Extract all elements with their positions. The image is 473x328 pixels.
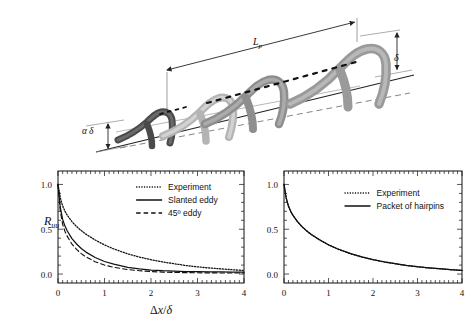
alpha-delta-label: αδ bbox=[82, 126, 93, 136]
x-tick-label: 2 bbox=[371, 288, 376, 298]
packet-length-label: Lp bbox=[253, 36, 262, 50]
hairpin-vortex-4 bbox=[290, 49, 386, 107]
y-tick-label: 1.0 bbox=[267, 180, 279, 190]
delta-label: δ bbox=[394, 52, 399, 63]
legend-label: 45º eddy bbox=[168, 208, 202, 218]
delta-leader-top bbox=[360, 30, 400, 36]
left-plot-legend: ExperimentSlanted eddy45º eddy bbox=[136, 182, 218, 218]
right-plot-frame bbox=[284, 171, 462, 283]
right-plot-ticks bbox=[284, 171, 462, 283]
right-plot: 012340.00.51.0 ExperimentPacket of hairp… bbox=[248, 163, 473, 328]
right-plot-svg: 012340.00.51.0 ExperimentPacket of hairp… bbox=[248, 163, 473, 303]
y-tick-label: 0.0 bbox=[267, 270, 279, 280]
left-plot-ylabel: Ruu bbox=[44, 214, 59, 230]
x-tick-label: 3 bbox=[195, 288, 200, 298]
x-tick-label: 1 bbox=[102, 288, 107, 298]
x-tick-label: 4 bbox=[242, 288, 247, 298]
legend-label: Packet of hairpins bbox=[377, 201, 445, 211]
right-plot-legend: ExperimentPacket of hairpins bbox=[345, 188, 445, 211]
hairpin-vortex-1 bbox=[118, 112, 172, 146]
y-tick-label: 0.5 bbox=[267, 225, 279, 235]
x-tick-label: 0 bbox=[282, 288, 287, 298]
x-tick-label: 3 bbox=[415, 288, 420, 298]
y-tick-label: 1.0 bbox=[41, 180, 53, 190]
x-tick-label: 1 bbox=[326, 288, 331, 298]
alphadelta-leader-bottom bbox=[96, 146, 128, 152]
legend-label: Experiment bbox=[377, 188, 421, 198]
x-tick-label: 4 bbox=[460, 288, 465, 298]
left-plot-frame bbox=[58, 171, 244, 283]
right-plot-curves bbox=[284, 184, 462, 270]
data-series-line bbox=[284, 184, 462, 270]
left-plot-ticks bbox=[58, 171, 244, 283]
delta-leader-bottom bbox=[375, 70, 412, 77]
left-plot-xlabel: Δx/δ bbox=[150, 303, 172, 318]
plots-row: 012340.00.51.0 ExperimentSlanted eddy45º… bbox=[0, 163, 473, 328]
legend-label: Experiment bbox=[168, 182, 212, 192]
left-plot-svg: 012340.00.51.0 ExperimentSlanted eddy45º… bbox=[22, 163, 254, 303]
y-tick-label: 0.0 bbox=[41, 270, 53, 280]
hairpin-vortex-3 bbox=[205, 80, 284, 129]
schematic-svg bbox=[0, 0, 473, 160]
figure-root: Lp δ αδ 012340.00.51.0 ExperimentSlanted… bbox=[0, 0, 473, 328]
data-series-line bbox=[284, 184, 462, 270]
left-plot: 012340.00.51.0 ExperimentSlanted eddy45º… bbox=[22, 163, 254, 328]
x-tick-label: 2 bbox=[149, 288, 154, 298]
hairpin-packet-schematic: Lp δ αδ bbox=[0, 0, 473, 160]
legend-label: Slanted eddy bbox=[168, 195, 218, 205]
x-tick-label: 0 bbox=[56, 288, 61, 298]
